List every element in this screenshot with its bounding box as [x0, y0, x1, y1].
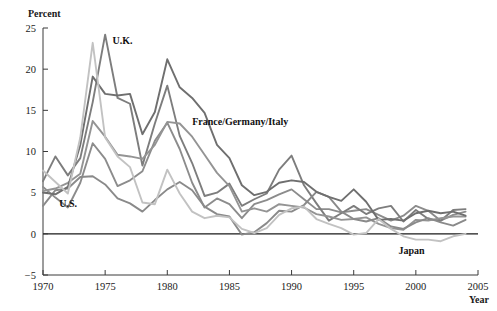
- x-tick-label: 1980: [157, 281, 178, 292]
- annotation-us: U.S.: [59, 198, 77, 209]
- y-tick-label: 0: [31, 229, 36, 240]
- x-tick-label: 1975: [95, 281, 116, 292]
- y-tick-label: 20: [26, 64, 37, 75]
- y-tick-label: 10: [26, 146, 37, 157]
- x-tick-label: 1985: [219, 281, 240, 292]
- annotation-uk: U.K.: [113, 35, 134, 46]
- series-line-uk: [43, 35, 466, 222]
- x-tick-label: 2005: [468, 281, 489, 292]
- series-line-france: [43, 121, 466, 230]
- y-tick-label: 15: [26, 105, 37, 116]
- x-tick-label: 1970: [33, 281, 54, 292]
- x-tick-label: 1990: [281, 281, 302, 292]
- series-annotations-group: U.K.U.S.France/Germany/ItalyJapan: [59, 35, 425, 255]
- x-axis-ticks: 19701975198019851990199520002005: [33, 270, 489, 292]
- x-tick-label: 1995: [343, 281, 364, 292]
- y-axis-ticks: −50510152025: [25, 23, 48, 281]
- x-axis-title: Year: [469, 294, 490, 305]
- annotation-japan: Japan: [398, 245, 425, 256]
- y-tick-label: 5: [31, 187, 36, 198]
- inflation-line-chart: −50510152025 197019751980198519901995200…: [0, 0, 497, 311]
- annotation-francegermanyitaly: France/Germany/Italy: [192, 116, 288, 127]
- x-tick-label: 2000: [405, 281, 426, 292]
- series-line-japan: [43, 43, 466, 241]
- y-tick-label: −5: [25, 270, 36, 281]
- data-series-group: [43, 35, 466, 242]
- y-tick-label: 25: [26, 23, 37, 34]
- chart-canvas: −50510152025 197019751980198519901995200…: [0, 0, 497, 311]
- y-axis-title: Percent: [28, 8, 61, 19]
